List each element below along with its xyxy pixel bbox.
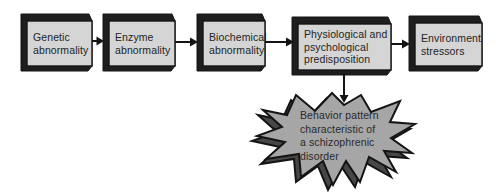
arrow-genetic-to-enzyme bbox=[92, 37, 104, 46]
box-biochemical-abnormality-label: Biochemical abnormality bbox=[203, 21, 265, 66]
flow-diagram: Genetic abnormality Enzyme abnormality B… bbox=[0, 0, 499, 195]
arrow-biochemical-to-physiological bbox=[265, 38, 294, 47]
box-environment-stressors-label: Environment stressors bbox=[415, 23, 482, 66]
arrow-physiological-to-environment bbox=[391, 40, 410, 49]
box-genetic-abnormality-label: Genetic abnormality bbox=[27, 21, 92, 66]
box-physiological-psychological-predisposition-label: Physiological and psychological predispo… bbox=[298, 24, 391, 70]
arrow-enzyme-to-biochemical bbox=[175, 38, 198, 47]
arrow-predisposition-to-behavior bbox=[340, 73, 349, 103]
box-enzyme-abnormality-label: Enzyme abnormality bbox=[109, 21, 175, 66]
starburst-label: Behavior pattern characteristic of a sch… bbox=[300, 109, 402, 163]
